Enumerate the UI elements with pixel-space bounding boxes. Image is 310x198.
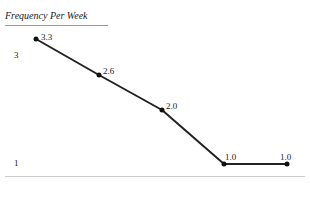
data-label: 2.0: [166, 101, 178, 111]
line-chart-plot: 3.3 2.6 2.0 1.0 1.0: [0, 0, 310, 198]
data-label: 3.3: [41, 32, 53, 42]
data-point: [34, 37, 39, 42]
data-point: [97, 73, 102, 78]
data-point: [160, 108, 165, 113]
data-label: 1.0: [225, 152, 237, 162]
bottom-divider: [5, 176, 305, 177]
data-point: [222, 162, 227, 167]
data-line: [36, 39, 287, 164]
data-label: 1.0: [280, 152, 292, 162]
data-label: 2.6: [103, 66, 115, 76]
data-point: [285, 162, 290, 167]
